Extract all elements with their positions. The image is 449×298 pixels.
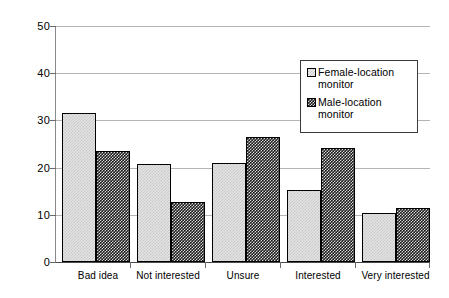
- legend-label-female-line2: monitor: [318, 78, 354, 90]
- x-tick-1: [130, 262, 131, 268]
- legend-label-male-line1: Male-location: [318, 96, 382, 108]
- legend-swatch-male-icon: [307, 98, 316, 107]
- x-label-very-interested: Very interested: [348, 270, 443, 282]
- bar-unsure-male: [246, 137, 280, 262]
- gridline-50: [55, 26, 430, 27]
- bar-very-interested-female: [362, 213, 396, 262]
- y-tick-label-0: 0: [16, 257, 50, 268]
- y-tick-label-20: 20: [16, 163, 50, 174]
- y-tick-mark-20: [50, 168, 56, 169]
- x-tick-5: [429, 262, 430, 268]
- legend-label-female-line1: Female-location: [318, 66, 394, 78]
- bar-bad-idea-male: [96, 151, 130, 262]
- y-axis: 50 40 30 20 10 0: [8, 0, 50, 298]
- y-tick-label-40: 40: [16, 68, 50, 79]
- legend-label-female: Female-locationmonitor: [318, 67, 394, 90]
- x-tick-4: [355, 262, 356, 268]
- y-tick-mark-40: [50, 73, 56, 74]
- y-tick-mark-30: [50, 120, 56, 121]
- y-tick-label-30: 30: [16, 115, 50, 126]
- legend-entry-male: Male-locationmonitor: [307, 97, 412, 120]
- y-axis-line: [55, 26, 56, 263]
- y-tick-label-50: 50: [16, 21, 50, 32]
- legend-swatch-female-icon: [307, 68, 316, 77]
- y-tick-label-10: 10: [16, 210, 50, 221]
- y-tick-mark-0: [50, 262, 56, 263]
- bar-interested-male: [321, 148, 355, 262]
- bar-not-interested-male: [171, 202, 205, 262]
- legend-label-male: Male-locationmonitor: [318, 97, 382, 120]
- legend: Female-locationmonitor Male-locationmoni…: [300, 60, 418, 133]
- bar-chart: 50 40 30 20 10 0 Bad idea Not interested…: [0, 0, 449, 298]
- y-tick-mark-10: [50, 215, 56, 216]
- legend-label-male-line2: monitor: [318, 108, 354, 120]
- bar-not-interested-female: [137, 164, 171, 262]
- legend-entry-female: Female-locationmonitor: [307, 67, 412, 90]
- bar-bad-idea-female: [62, 113, 96, 262]
- bar-interested-female: [287, 190, 321, 262]
- bar-unsure-female: [212, 163, 246, 262]
- y-tick-mark-50: [50, 26, 56, 27]
- bar-very-interested-male: [396, 208, 430, 262]
- x-tick-2: [205, 262, 206, 268]
- x-tick-3: [280, 262, 281, 268]
- x-axis-line: [55, 262, 430, 263]
